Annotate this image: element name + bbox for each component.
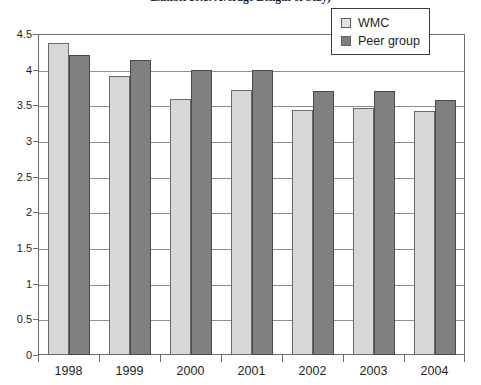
x-tick-label: 2003 xyxy=(360,364,388,378)
x-tick-mark xyxy=(464,355,465,362)
bar-peer-group-2003 xyxy=(374,91,395,355)
x-tick-label: 2000 xyxy=(177,364,205,378)
chart-legend: WMCPeer group xyxy=(331,8,430,55)
y-tick-label: 1 xyxy=(26,278,32,290)
bar-peer-group-1999 xyxy=(130,60,151,355)
y-tick-label: 4.5 xyxy=(17,28,32,40)
y-tick-label: 0.5 xyxy=(17,313,32,325)
x-tick-label: 1998 xyxy=(55,364,83,378)
x-tick-mark xyxy=(38,355,39,362)
bar-wmc-2003 xyxy=(353,108,374,355)
bar-wmc-2004 xyxy=(414,111,435,355)
bar-wmc-2002 xyxy=(292,110,313,355)
x-tick-mark xyxy=(99,355,100,362)
x-tick-label: 1999 xyxy=(116,364,144,378)
x-tick-label: 2001 xyxy=(238,364,266,378)
legend-item-wmc: WMC xyxy=(341,14,429,32)
x-tick-mark xyxy=(221,355,222,362)
x-tick-mark xyxy=(282,355,283,362)
x-tick-mark xyxy=(404,355,405,362)
y-axis: 00.511.522.533.544.5 xyxy=(0,34,32,355)
legend-item-label: Peer group xyxy=(358,34,420,48)
legend-item-label: WMC xyxy=(358,16,389,30)
bars-layer xyxy=(38,34,465,355)
bar-peer-group-2001 xyxy=(252,70,273,355)
bar-wmc-1998 xyxy=(48,43,69,355)
x-axis: 1998199920002001200220032004 xyxy=(38,355,465,385)
y-tick-label: 3.5 xyxy=(17,99,32,111)
bar-peer-group-2002 xyxy=(313,91,334,355)
y-tick-label: 2.5 xyxy=(17,171,32,183)
y-tick-label: 4 xyxy=(26,64,32,76)
legend-item-peer: Peer group xyxy=(341,32,429,50)
legend-swatch-icon xyxy=(341,36,351,46)
y-tick-label: 0 xyxy=(26,349,32,361)
bar-wmc-1999 xyxy=(109,76,130,355)
bar-chart: Exhibit 10.1: Average Length of Stay) 00… xyxy=(0,0,481,385)
bar-peer-group-2000 xyxy=(191,70,212,355)
bar-peer-group-2004 xyxy=(435,100,456,355)
bar-peer-group-1998 xyxy=(69,55,90,355)
x-tick-label: 2004 xyxy=(421,364,449,378)
y-tick-label: 2 xyxy=(26,206,32,218)
x-tick-mark xyxy=(160,355,161,362)
legend-swatch-icon xyxy=(341,18,351,28)
y-tick-label: 3 xyxy=(26,135,32,147)
chart-title: Exhibit 10.1: Average Length of Stay) xyxy=(0,0,481,3)
x-tick-mark xyxy=(343,355,344,362)
y-tick-label: 1.5 xyxy=(17,242,32,254)
bar-wmc-2000 xyxy=(170,99,191,355)
x-tick-label: 2002 xyxy=(299,364,327,378)
bar-wmc-2001 xyxy=(231,90,252,355)
